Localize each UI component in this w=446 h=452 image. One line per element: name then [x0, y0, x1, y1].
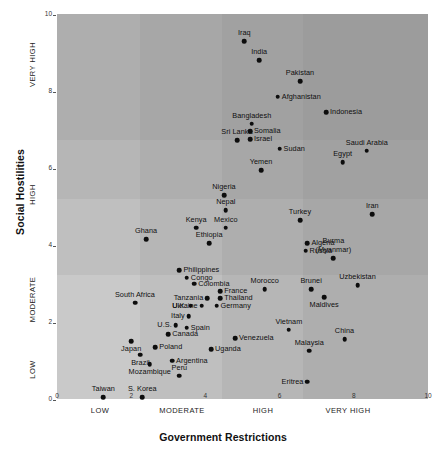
y-category-moderate: MODERATE [28, 260, 37, 340]
x-tick-8: 8 [347, 392, 361, 399]
data-label-indonesia: Indonesia [330, 108, 362, 116]
data-point-italy [186, 314, 191, 319]
y-tick-8: 8 [38, 87, 52, 94]
y-category-high: HIGH [28, 155, 37, 235]
data-point-poland [153, 345, 158, 350]
y-tick-2: 2 [38, 318, 52, 325]
data-label-uganda: Uganda [215, 345, 241, 353]
data-point-ghana [144, 237, 149, 242]
data-point-south-africa [133, 300, 138, 305]
data-label-nigeria: Nigeria [212, 183, 235, 191]
data-label-egypt: Egypt [333, 150, 352, 158]
x-category-low: LOW [60, 406, 140, 415]
data-point-israel [248, 137, 253, 142]
data-label-uzbekistan: Uzbekistan [339, 273, 376, 281]
data-label-india: India [251, 48, 267, 56]
data-label-maldives: Maldives [310, 301, 339, 309]
data-label-sri-lanka: Sri Lanka [221, 128, 252, 136]
data-point-pakistan [298, 79, 303, 84]
data-label-canada: Canada [172, 330, 198, 338]
data-point-mexico [224, 225, 229, 230]
data-point-turkey [298, 218, 303, 223]
data-point-india [257, 58, 262, 63]
x-category-high: HIGH [222, 406, 304, 415]
data-point-brunei [309, 287, 314, 292]
data-point-ukraine [199, 304, 204, 309]
data-point-philippines [177, 268, 182, 273]
data-label-south-africa: South Africa [115, 290, 155, 298]
data-point-japan [129, 339, 134, 344]
data-point-nepal [224, 208, 229, 213]
data-label-burma-myanmar: Burma (Myanmar) [316, 238, 352, 255]
data-point-taiwan [101, 395, 106, 400]
data-point-yemen [259, 168, 264, 173]
data-point-vietnam [287, 327, 292, 332]
y-category-very-high: VERY HIGH [28, 25, 37, 105]
data-point-colombia [192, 281, 197, 286]
data-label-s-korea: S. Korea [128, 385, 157, 393]
data-point-malaysia [307, 349, 312, 354]
data-label-ghana: Ghana [135, 227, 157, 235]
data-point-mozambique [147, 362, 152, 367]
data-label-afghanistan: Afghanistan [282, 93, 321, 101]
data-label-sudan: Sudan [284, 145, 305, 153]
data-label-u-s: U.S. [157, 321, 171, 329]
data-label-iraq: Iraq [238, 29, 251, 37]
data-label-ukraine: Ukraine [172, 302, 198, 310]
data-label-saudi-arabia: Saudi Arabia [346, 138, 388, 146]
data-point-burma-myanmar [331, 256, 336, 261]
data-point-morocco [262, 287, 267, 292]
data-point-brazil [138, 352, 143, 357]
data-label-nepal: Nepal [216, 198, 235, 206]
y-tick-10: 10 [38, 10, 52, 17]
data-point-canada [166, 332, 171, 337]
data-label-germany: Germany [221, 302, 251, 310]
data-label-israel: Israel [254, 135, 272, 143]
data-point-u-s [173, 323, 178, 328]
data-label-venezuela: Venezuela [239, 334, 274, 342]
data-point-sri-lanka [235, 138, 240, 143]
data-label-eritrea: Eritrea [282, 377, 304, 385]
data-point-indonesia [324, 110, 329, 115]
data-point-egypt [340, 160, 345, 165]
x-tick-0: 0 [50, 392, 64, 399]
y-axis-title: Social Hostilities [14, 132, 26, 252]
data-point-afghanistan [275, 94, 280, 99]
data-label-malaysia: Malaysia [295, 338, 324, 346]
data-label-brunei: Brunei [300, 277, 321, 285]
x-tick-6: 6 [273, 392, 287, 399]
data-point-germany [214, 304, 219, 309]
data-point-saudi-arabia [364, 148, 369, 153]
data-point-congo [185, 275, 190, 280]
x-axis-title: Government Restrictions [0, 431, 446, 443]
data-point-iraq [242, 39, 247, 44]
data-label-china: China [335, 327, 354, 335]
scatter-plot-figure: Social Hostilities Government Restrictio… [0, 0, 446, 452]
data-point-eritrea [305, 379, 310, 384]
data-point-uganda [209, 347, 214, 352]
x-tick-10: 10 [421, 392, 435, 399]
data-point-france [218, 289, 223, 294]
data-label-vietnam: Vietnam [275, 317, 302, 325]
data-point-ethiopia [207, 241, 212, 246]
data-label-poland: Poland [159, 343, 182, 351]
data-point-maldives [322, 295, 327, 300]
y-tick-6: 6 [38, 164, 52, 171]
data-point-tanzania [205, 296, 210, 301]
x-category-very-high: VERY HIGH [303, 406, 393, 415]
data-point-venezuela [233, 336, 238, 341]
data-point-russia [303, 248, 308, 253]
data-label-bangladesh: Bangladesh [232, 111, 271, 119]
data-point-peru [177, 374, 182, 379]
data-point-iran [370, 212, 375, 217]
data-label-turkey: Turkey [289, 208, 311, 216]
data-label-kenya: Kenya [186, 215, 207, 223]
x-tick-4: 4 [198, 392, 212, 399]
y-tick-4: 4 [38, 241, 52, 248]
data-label-mozambique: Mozambique [129, 368, 171, 376]
data-point-s-korea [140, 395, 145, 400]
data-label-morocco: Morocco [251, 277, 279, 285]
data-label-taiwan: Taiwan [92, 385, 115, 393]
data-point-sudan [277, 146, 282, 151]
y-category-low: LOW [28, 330, 37, 410]
